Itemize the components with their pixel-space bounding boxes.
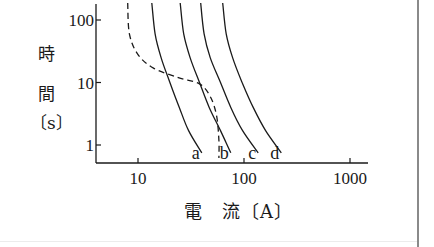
- y-tick-label: 100: [69, 11, 95, 30]
- y-axis-title-char-1: 時: [38, 46, 55, 63]
- curve-a: [152, 3, 202, 153]
- ticks: [96, 20, 350, 163]
- x-tick-label: 10: [130, 169, 147, 188]
- y-tick-label: 10: [77, 74, 94, 93]
- frame-border-right: [417, 0, 419, 247]
- x-tick-label: 100: [231, 169, 257, 188]
- curve-c: [201, 3, 259, 153]
- y-tick-label: 1: [86, 136, 95, 155]
- curve-label-c: c: [248, 143, 256, 163]
- curve-label-d: d: [270, 143, 279, 163]
- y-axis-title-char-2: 間: [38, 86, 55, 103]
- frame-border-bottom: [0, 241, 417, 242]
- x-tick-label: 1000: [333, 169, 367, 188]
- curves: [128, 3, 282, 158]
- curve-label-a: a: [192, 143, 200, 163]
- x-axis-title: 電 流〔A〕: [184, 197, 293, 223]
- curve-labels: abcd: [192, 143, 280, 163]
- axes: [96, 4, 368, 163]
- curve-d: [223, 3, 282, 153]
- curve-label-b: b: [220, 143, 229, 163]
- curve-dashed: [128, 3, 219, 158]
- tick-labels: 101001000110100: [69, 11, 368, 188]
- y-axis-title-unit: 〔s〕: [30, 115, 73, 132]
